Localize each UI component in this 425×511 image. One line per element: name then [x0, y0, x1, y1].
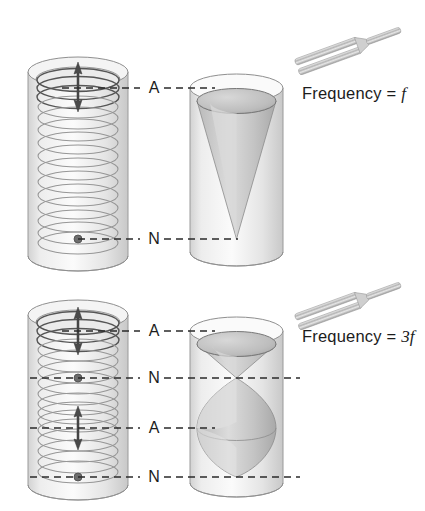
frequency-caption-third: Frequency = 3f — [302, 327, 415, 347]
upper-cone-top-cap — [197, 332, 276, 357]
frequency-caption-symbol: 3f — [401, 327, 415, 346]
right-tube-fundamental — [190, 74, 283, 266]
frequency-caption-prefix: Frequency = — [302, 327, 401, 345]
left-tube-third — [28, 300, 128, 500]
tuning-fork-icon — [294, 22, 403, 76]
marker-label-node-2: N — [148, 468, 160, 486]
fundamental-graphics — [0, 0, 425, 280]
cone-top-cap — [197, 89, 276, 114]
third-harmonic-graphics — [0, 280, 425, 511]
fork-handle — [366, 282, 402, 300]
marker-label-antinode: A — [149, 79, 160, 97]
frequency-caption-symbol: f — [401, 84, 406, 103]
panel-third-harmonic: A N A N Frequency = 3f — [0, 280, 425, 511]
fork-handle — [366, 27, 402, 45]
marker-label-antinode-1: A — [149, 322, 160, 340]
marker-label-node-1: N — [148, 369, 160, 387]
right-tube-third — [190, 317, 283, 497]
frequency-caption-fundamental: Frequency = f — [302, 84, 406, 104]
panel-fundamental: A N Frequency = f — [0, 0, 425, 280]
marker-label-antinode-2: A — [149, 419, 160, 437]
tuning-fork-icon — [294, 280, 403, 330]
frequency-caption-prefix: Frequency = — [302, 84, 401, 102]
marker-label-node: N — [148, 230, 160, 248]
